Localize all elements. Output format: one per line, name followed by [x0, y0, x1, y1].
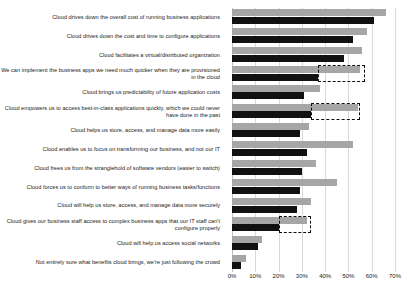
bar-group — [232, 28, 395, 47]
axis-tick-label: 50% — [342, 273, 354, 279]
plot-area — [232, 8, 395, 272]
horizontal-bar-chart: Cloud drives down the overall cost of ru… — [0, 0, 408, 295]
category-label: Cloud brings us predictability of future… — [0, 83, 224, 102]
category-label-text: Cloud drives down the overall cost of ru… — [52, 14, 224, 21]
axis-tick-label: 10% — [249, 273, 261, 279]
bar-series-0 — [232, 104, 358, 111]
category-label: Cloud will help us store, access, and ma… — [0, 197, 224, 216]
bar-series-1 — [232, 187, 300, 194]
bar-series-0 — [232, 236, 262, 243]
x-axis: 0%10%20%30%40%50%60%70% — [232, 273, 395, 287]
category-label-text: We can implement the business apps we ne… — [0, 67, 224, 81]
bar-group — [232, 9, 395, 28]
bar-series-0 — [232, 28, 367, 35]
bar-group — [232, 236, 395, 255]
category-label-text: Cloud empowers us to access best-in-clas… — [0, 105, 224, 119]
bar-group — [232, 160, 395, 179]
category-label: Not entirely sure what benefits cloud br… — [0, 253, 224, 272]
bar-series-1 — [232, 224, 279, 231]
category-label-text: Cloud will help us access social network… — [117, 240, 224, 247]
category-label: We can implement the business apps we ne… — [0, 65, 224, 84]
axis-tick-label: 20% — [273, 273, 285, 279]
bar-series-1 — [232, 130, 300, 137]
category-label: Cloud gives our business staff access to… — [0, 215, 224, 234]
bar-series-1 — [232, 149, 307, 156]
bar-series-1 — [232, 17, 374, 24]
bar-series-1 — [232, 74, 318, 81]
bar-series-0 — [232, 47, 362, 54]
bar-series-0 — [232, 123, 309, 130]
category-label: Cloud facilitates a virtual/distributed … — [0, 46, 224, 65]
bar-series-1 — [232, 92, 304, 99]
axis-tick-label: 70% — [389, 273, 401, 279]
bar-series-0 — [232, 66, 360, 73]
bar-group — [232, 47, 395, 66]
category-label-column: Cloud drives down the overall cost of ru… — [0, 8, 228, 272]
category-label-text: Cloud forces us to conform to better way… — [27, 184, 224, 191]
bar-series-1 — [232, 36, 353, 43]
bar-series-0 — [232, 160, 316, 167]
category-label-text: Cloud brings us predictability of future… — [82, 89, 224, 96]
bar-group — [232, 198, 395, 217]
bar-series-0 — [232, 85, 320, 92]
bar-group — [232, 179, 395, 198]
category-label-text: Cloud drives down the cost and time to c… — [67, 33, 224, 40]
category-label: Cloud forces us to conform to better way… — [0, 178, 224, 197]
axis-tick-label: 40% — [319, 273, 331, 279]
bar-group — [232, 104, 395, 123]
category-label-text: Cloud enables us to focus on transformin… — [43, 146, 224, 153]
category-label: Cloud empowers us to access best-in-clas… — [0, 102, 224, 121]
bar-series-0 — [232, 198, 311, 205]
bar-group — [232, 123, 395, 142]
axis-tick-label: 60% — [366, 273, 378, 279]
category-label: Cloud will help us access social network… — [0, 234, 224, 253]
axis-tick-label: 30% — [296, 273, 308, 279]
bar-group — [232, 85, 395, 104]
bar-group — [232, 66, 395, 85]
bar-series-1 — [232, 168, 302, 175]
bar-series-0 — [232, 217, 307, 224]
category-label: Cloud enables us to focus on transformin… — [0, 140, 224, 159]
category-label-text: Cloud gives our business staff access to… — [0, 218, 224, 232]
gridline-70 — [395, 8, 396, 272]
category-label-text: Cloud will help us store, access, and ma… — [57, 202, 224, 209]
category-label: Cloud drives down the cost and time to c… — [0, 27, 224, 46]
bar-group — [232, 255, 395, 274]
bar-series-0 — [232, 9, 386, 16]
bar-group — [232, 217, 395, 236]
category-label: Cloud helps us store, access, and manage… — [0, 121, 224, 140]
bar-group — [232, 141, 395, 160]
axis-tick-label: 0% — [228, 273, 237, 279]
category-label: Cloud frees us from the stranglehold of … — [0, 159, 224, 178]
bar-series-0 — [232, 179, 337, 186]
bar-series-1 — [232, 55, 344, 62]
bar-series-1 — [232, 262, 241, 269]
bar-series-1 — [232, 206, 297, 213]
category-label-text: Cloud facilitates a virtual/distributed … — [99, 52, 224, 59]
category-label-text: Cloud frees us from the stranglehold of … — [34, 165, 224, 172]
bar-series-0 — [232, 255, 246, 262]
category-label-text: Cloud helps us store, access, and manage… — [71, 127, 224, 134]
category-label-text: Not entirely sure what benefits cloud br… — [36, 259, 224, 266]
bar-series-1 — [232, 111, 311, 118]
bar-series-0 — [232, 141, 353, 148]
category-label: Cloud drives down the overall cost of ru… — [0, 8, 224, 27]
bar-series-1 — [232, 243, 258, 250]
